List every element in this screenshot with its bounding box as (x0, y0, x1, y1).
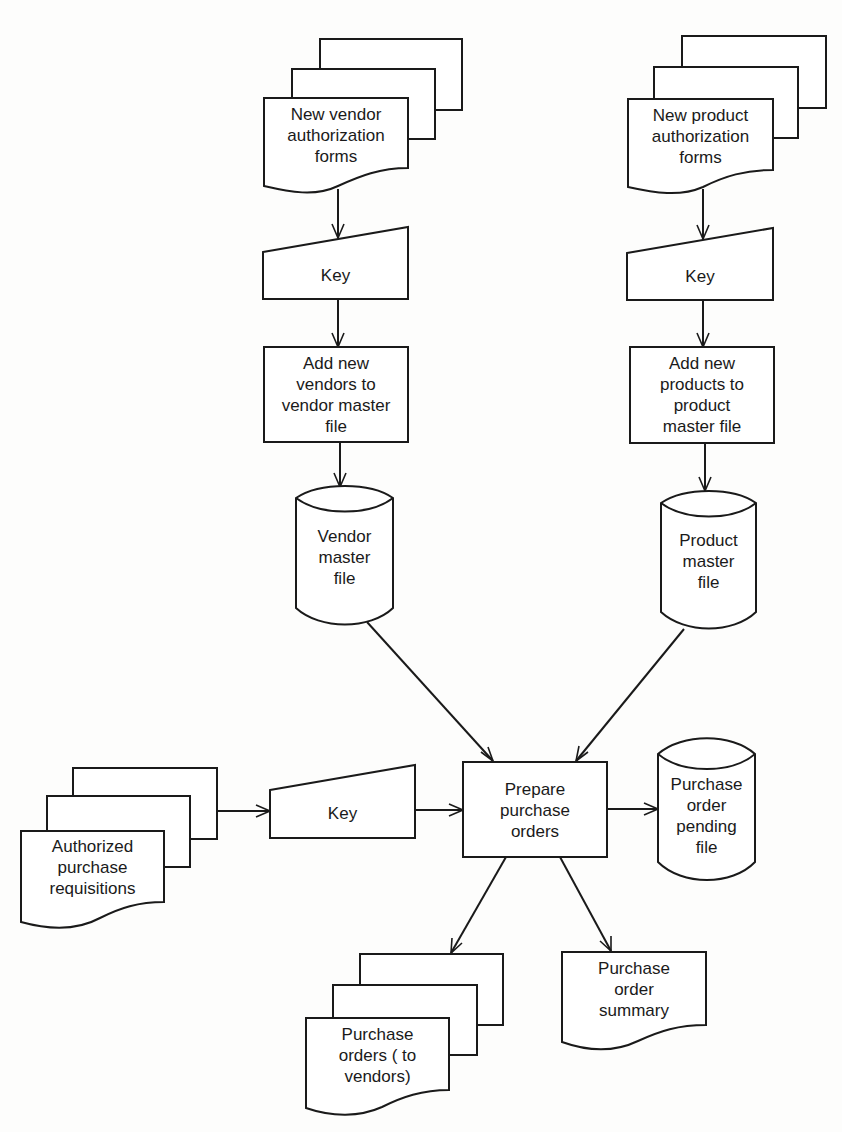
flowchart-canvas: New vendor authorization forms Key Add n… (0, 0, 842, 1132)
edge-vendor-master-to-prepare (367, 622, 493, 761)
arrowhead-icon (451, 938, 462, 953)
edge-prepare-to-summary (560, 857, 611, 951)
node-vendor-master: Vendor master file (296, 517, 393, 597)
node-add-products: Add new products to product master file (630, 349, 774, 441)
edge-product-master-to-prepare (576, 629, 684, 761)
edge-prepare-to-purchase-orders (451, 857, 506, 953)
node-add-vendors: Add new vendors to vendor master file (264, 349, 408, 441)
node-purchase-orders: Purchase orders ( to vendors) (306, 1020, 449, 1090)
node-vendor-key: Key (263, 255, 408, 295)
node-requisition-key: Key (270, 793, 415, 833)
node-po-summary: Purchase order summary (562, 954, 706, 1024)
node-prepare-po: Prepare purchase orders (463, 764, 607, 856)
node-vendor-forms: New vendor authorization forms (264, 100, 408, 170)
node-product-master: Product master file (661, 521, 756, 601)
node-requisitions: Authorized purchase requisitions (21, 833, 164, 901)
node-product-forms: New product authorization forms (628, 101, 773, 171)
node-product-key: Key (627, 256, 773, 296)
node-po-pending: Purchase order pending file (658, 770, 755, 862)
arrowhead-icon (600, 936, 611, 951)
